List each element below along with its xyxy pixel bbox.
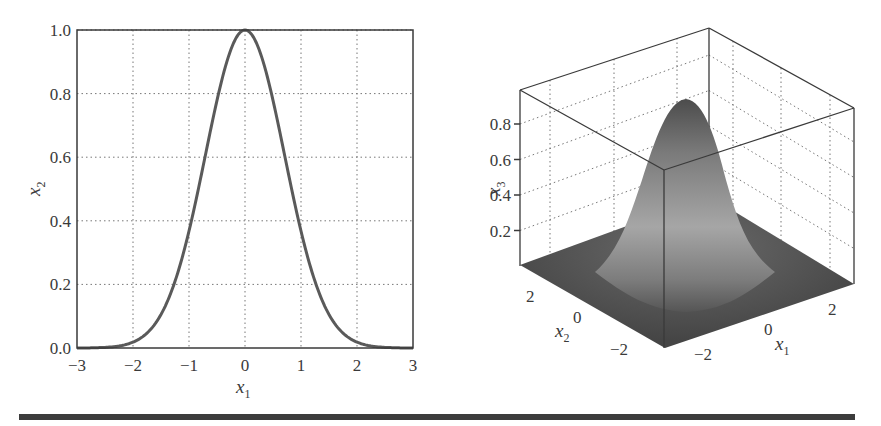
grid-lines (77, 30, 413, 348)
z-tick-label: 0.8 (490, 115, 511, 134)
x-tick-label: −1 (180, 356, 198, 375)
z-tick-labels: 0.20.40.60.8 (490, 115, 520, 241)
x-tick-label: 2 (353, 356, 362, 375)
figure: 0.00.20.40.60.81.0 −3−2−10123 x1 x2 (0, 0, 881, 426)
y-tick-label: 0.6 (50, 148, 71, 167)
surface-chart: 0.20.40.60.8 x3 2 0 −2 x2 −2 0 2 x1 (483, 28, 854, 364)
figure-canvas: 0.00.20.40.60.81.0 −3−2−10123 x1 x2 (0, 0, 881, 426)
x-tick-label: −3 (68, 356, 86, 375)
x-tick-label: −2 (124, 356, 142, 375)
x2-tick-2: 2 (526, 287, 535, 306)
x-axis-label: x1 (235, 376, 250, 401)
y-axis-label: x2 (23, 182, 48, 197)
x-tick-label: 0 (241, 356, 250, 375)
x1-axis-label: x1 (774, 333, 789, 358)
x2-tick-minus2: −2 (610, 340, 628, 359)
x-tick-label: 3 (409, 356, 418, 375)
y-tick-labels: 0.00.20.40.60.81.0 (50, 21, 72, 358)
surface-peak (595, 99, 775, 312)
y-tick-label: 0.2 (50, 275, 71, 294)
x2-axis-label: x2 (554, 320, 569, 345)
y-tick-label: 1.0 (50, 21, 71, 40)
x2-tick-0: 0 (573, 308, 582, 327)
x1-tick-2: 2 (828, 300, 837, 319)
x1-tick-minus2: −2 (694, 345, 712, 364)
y-tick-label: 0.4 (50, 212, 72, 231)
bottom-rule (19, 414, 855, 420)
line-chart: 0.00.20.40.60.81.0 −3−2−10123 x1 x2 (23, 21, 417, 401)
y-tick-label: 0.8 (50, 85, 71, 104)
x1-tick-0: 0 (764, 320, 773, 339)
x-tick-labels: −3−2−10123 (68, 356, 417, 375)
z-tick-label: 0.6 (490, 151, 511, 170)
x-tick-label: 1 (297, 356, 306, 375)
z-tick-label: 0.2 (490, 222, 511, 241)
